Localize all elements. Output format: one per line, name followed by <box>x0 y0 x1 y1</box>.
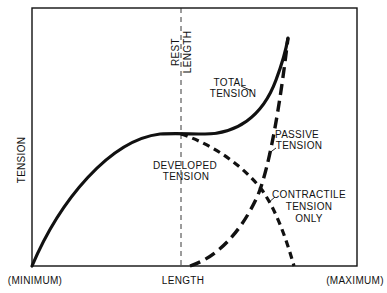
contractile-tension-curve <box>181 134 294 266</box>
y-axis-label: TENSION <box>16 137 27 184</box>
developed-tension-label-line2: TENSION <box>163 171 210 182</box>
rest-length-label-line2: LENGTH <box>182 31 193 73</box>
x-axis-label: LENGTH <box>162 275 204 286</box>
total-tension-label-line2: TENSION <box>210 88 257 99</box>
contractile-tension-label-line3: ONLY <box>295 213 323 224</box>
passive-tension-curve <box>190 38 288 266</box>
developed-tension-label-line1: DEVELOPED <box>153 160 217 171</box>
total-tension-label-line1: TOTAL <box>214 77 247 88</box>
total-tension-curve <box>32 38 288 266</box>
passive-tension-label-line2: TENSION <box>276 140 323 151</box>
contractile-tension-label-line2: TENSION <box>286 201 333 212</box>
x-axis-min-label: (MINIMUM) <box>8 275 62 286</box>
rest-length-label-line1: REST <box>170 38 181 66</box>
passive-tension-label-line1: PASSIVE <box>275 129 319 140</box>
contractile-tension-label-line1: CONTRACTILE <box>272 189 346 200</box>
length-tension-chart: TENSION REST LENGTH TOTAL TENSION PASSIV… <box>0 0 387 293</box>
x-axis-max-label: (MAXIMUM) <box>326 275 384 286</box>
